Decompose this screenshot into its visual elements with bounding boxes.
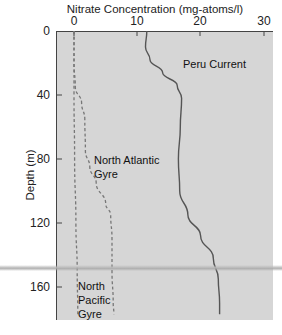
series-north-pacific-gyre <box>74 31 78 314</box>
label-pacific-line2: Pacific <box>78 293 110 307</box>
label-pacific-line1: North <box>78 279 110 293</box>
scan-band <box>0 265 282 271</box>
label-pacific-line3: Gyre <box>78 307 110 321</box>
x-tick-marks <box>74 31 264 36</box>
label-north-pacific-gyre: North Pacific Gyre <box>78 279 110 321</box>
label-peru-current: Peru Current <box>183 57 246 71</box>
label-north-atlantic-gyre: North Atlantic Gyre <box>94 153 159 181</box>
label-atlantic-line2: Gyre <box>94 167 159 181</box>
label-atlantic-line1: North Atlantic <box>94 153 159 167</box>
y-tick-marks <box>57 95 62 287</box>
